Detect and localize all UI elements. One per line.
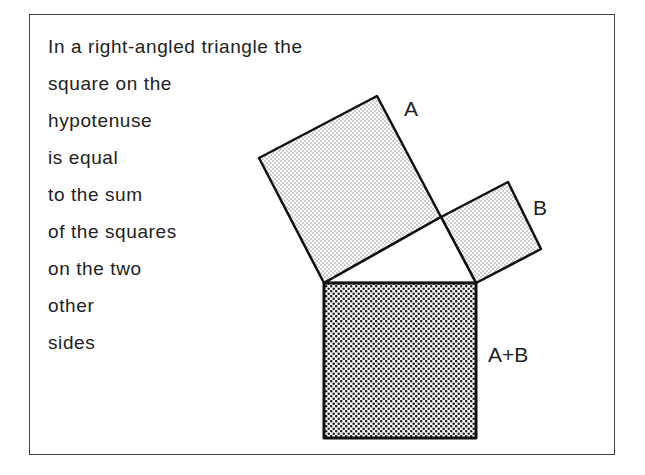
pythagoras-diagram [0, 0, 645, 475]
label-a: A [404, 97, 418, 121]
label-b: B [533, 196, 547, 220]
square-hypotenuse [324, 283, 476, 438]
label-a-plus-b: A+B [488, 343, 528, 367]
